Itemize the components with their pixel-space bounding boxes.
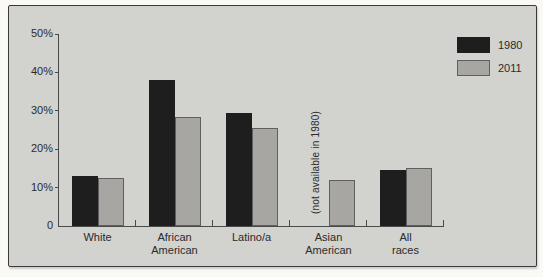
bar-2011-african-american <box>175 117 201 226</box>
x-tick <box>443 220 444 226</box>
x-axis-label-latino-a: Latino/a <box>232 231 271 244</box>
bar-1980-latino-a <box>226 113 252 226</box>
bar-2011-latino-a <box>252 128 278 226</box>
bar-1980-white <box>72 176 98 226</box>
y-tick <box>55 34 59 35</box>
y-axis-label: 20% <box>9 142 53 155</box>
legend-item-2011: 2011 <box>457 60 522 76</box>
x-tick <box>135 220 136 226</box>
x-tick <box>212 220 213 226</box>
y-axis-label: 0 <box>9 219 53 232</box>
figure-root: { "frame": { "page_background": "#faf9f6… <box>0 0 543 277</box>
y-axis-label: 50% <box>9 27 53 40</box>
x-axis-label-african-american: African American <box>151 231 197 256</box>
annotation-not-available: (not available in 1980) <box>310 111 321 214</box>
legend-label-2011: 2011 <box>498 62 522 74</box>
y-axis-label: 40% <box>9 65 53 78</box>
legend-item-1980: 1980 <box>457 37 522 53</box>
legend-swatch-2011 <box>457 60 490 76</box>
bar-2011-all-races <box>406 168 432 226</box>
bar-2011-asian-american <box>329 180 355 226</box>
y-tick <box>55 110 59 111</box>
x-axis-label-asian-american: Asian American <box>305 231 351 256</box>
legend: 1980 2011 <box>457 37 522 83</box>
legend-swatch-1980 <box>457 37 490 53</box>
x-tick <box>289 220 290 226</box>
y-axis-label: 30% <box>9 104 53 117</box>
bar-1980-all-races <box>380 170 406 226</box>
bar-1980-african-american <box>149 80 175 226</box>
y-tick <box>55 149 59 150</box>
bar-2011-white <box>98 178 124 226</box>
y-tick <box>55 187 59 188</box>
y-axis-label: 10% <box>9 181 53 194</box>
legend-label-1980: 1980 <box>498 39 522 51</box>
x-tick <box>366 220 367 226</box>
x-axis-label-all-races: All races <box>386 231 425 256</box>
chart-panel: 50%40%30%20%10%0WhiteAfrican AmericanLat… <box>8 5 537 267</box>
plot-area: 50%40%30%20%10%0WhiteAfrican AmericanLat… <box>58 34 444 227</box>
y-tick <box>55 72 59 73</box>
x-axis-label-white: White <box>83 231 111 244</box>
